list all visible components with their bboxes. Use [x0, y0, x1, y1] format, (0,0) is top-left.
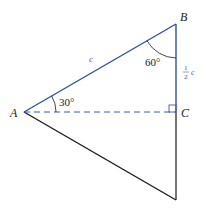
half-numerator: 1	[184, 64, 188, 72]
half-denominator: 2	[184, 73, 188, 81]
angle-label-a: 30°	[59, 96, 74, 108]
angle-arc-a	[52, 96, 56, 112]
right-angle-marker	[169, 105, 176, 112]
vertex-label-a: A	[9, 106, 18, 120]
angle-label-b: 60°	[145, 56, 160, 68]
half-var: c	[191, 68, 195, 77]
triangle-diagram: A B C c 1 2 c 30° 60°	[0, 0, 203, 217]
edge-ab-hypotenuse	[24, 24, 176, 112]
vertex-label-b: B	[180, 10, 188, 24]
vertex-label-c: C	[181, 106, 190, 120]
side-label-c: c	[89, 54, 93, 64]
edge-a-to-bottom	[24, 112, 176, 200]
